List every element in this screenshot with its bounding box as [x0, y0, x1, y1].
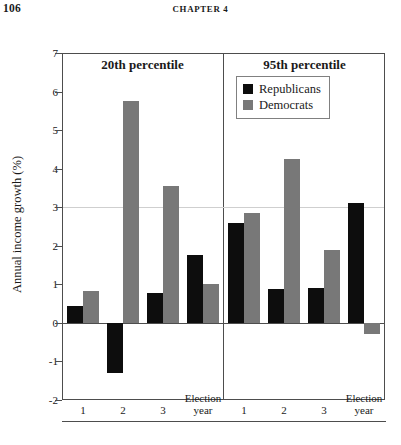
y-tick-mark [55, 284, 62, 285]
y-axis-ticks [0, 24, 401, 445]
x-tick-label: 1 [63, 404, 103, 416]
bar-republicans [268, 289, 284, 323]
bar-republicans [67, 306, 83, 323]
panel-title-left: 20th percentile [62, 57, 223, 73]
legend-swatch-republicans-icon [243, 84, 253, 94]
y-tick-mark [55, 207, 62, 208]
running-head: 106 CHAPTER 4 [0, 0, 401, 24]
bar-republicans [348, 203, 364, 323]
bar-democrats [244, 213, 260, 323]
bar-democrats [203, 284, 219, 323]
panel-title-right: 95th percentile [224, 57, 385, 73]
legend-item-democrats: Democrats [243, 97, 321, 113]
x-tick-label: 3 [304, 404, 344, 416]
bar-republicans [308, 288, 324, 323]
chapter-label: CHAPTER 4 [0, 4, 401, 14]
y-tick-mark [55, 92, 62, 93]
y-tick-mark [55, 169, 62, 170]
y-tick-mark [55, 323, 62, 324]
bar-republicans [228, 223, 244, 323]
x-tick-label: Electionyear [183, 392, 223, 416]
legend-label-republicans: Republicans [259, 81, 321, 97]
x-tick-label: 1 [224, 404, 264, 416]
bar-democrats [83, 291, 99, 323]
bar-democrats [163, 186, 179, 323]
bar-republicans [187, 255, 203, 322]
y-tick-mark [55, 361, 62, 362]
bar-democrats [284, 159, 300, 323]
x-tick-label: 3 [143, 404, 183, 416]
legend-swatch-democrats-icon [243, 100, 253, 110]
x-tick-label: Electionyear [344, 392, 384, 416]
bar-democrats [123, 101, 139, 323]
bar-democrats [324, 250, 340, 322]
chart-legend: Republicans Democrats [236, 76, 330, 119]
y-tick-mark [55, 400, 62, 401]
x-tick-label: 2 [264, 404, 304, 416]
x-tick-label: 2 [103, 404, 143, 416]
gridline [63, 207, 384, 208]
legend-label-democrats: Democrats [259, 97, 313, 113]
y-tick-mark [55, 246, 62, 247]
figure-bar-chart: Annual income growth (%) 76543210-1-2 20… [0, 24, 401, 445]
bar-republicans [147, 293, 163, 323]
y-tick-mark [55, 53, 62, 54]
bar-republicans [107, 323, 123, 373]
y-tick-mark [55, 130, 62, 131]
bar-democrats [364, 323, 380, 334]
legend-item-republicans: Republicans [243, 81, 321, 97]
